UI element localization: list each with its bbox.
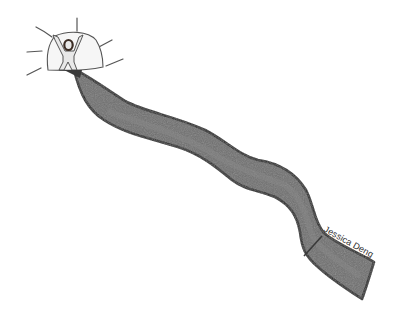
winding-road bbox=[74, 69, 374, 299]
illustration-canvas bbox=[0, 0, 397, 320]
doorway-shadow bbox=[64, 70, 82, 78]
